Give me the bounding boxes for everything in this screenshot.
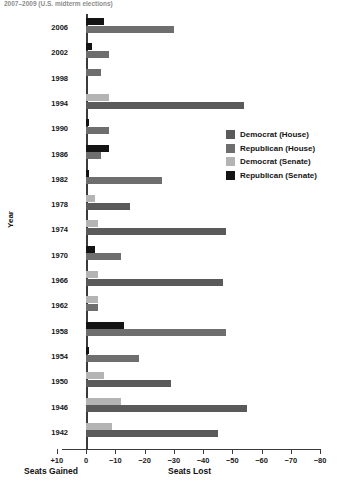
x-tick-label: −70 [284,456,297,465]
legend-item-dem-senate: Democrat (Senate) [226,155,317,169]
bar-dem-senate-1978 [86,195,95,202]
bar-rep-senate-1970 [86,246,95,253]
legend-label: Republican (House) [240,144,315,153]
y-axis-year-label: 1970 [22,251,68,260]
x-tick-mark [174,449,175,454]
x-tick-label: −30 [167,456,180,465]
bar-rep-house-1954 [86,355,139,362]
bar-dem-house-1974 [86,228,226,235]
bar-rep-house-2006 [86,26,174,33]
legend-label: Republican (Senate) [240,171,317,180]
bar-rep-senate-1958 [86,322,124,329]
chart-container: 2007–2009 (U.S. midterm elections) Year … [0,0,340,483]
y-axis-year-label: 1962 [22,301,68,310]
x-tick-label: +10 [50,456,63,465]
x-tick-label: 0 [84,456,88,465]
bar-rep-house-1958 [86,329,226,336]
legend-item-rep-senate: Republican (Senate) [226,169,317,183]
y-axis-year-label: 1954 [22,352,68,361]
bar-dem-senate-1974 [86,220,98,227]
bar-rep-house-1982 [86,177,162,184]
y-axis-year-label: 2006 [22,23,68,32]
x-tick-label: −50 [226,456,239,465]
bar-dem-senate-1946 [86,398,121,405]
bar-rep-senate-1990 [86,119,89,126]
x-tick-label: −10 [109,456,122,465]
bar-dem-senate-1966 [86,271,98,278]
axis-caption-lost: Seats Lost [168,466,211,476]
legend-label: Democrat (House) [240,130,309,139]
bar-dem-house-1978 [86,203,130,210]
bar-rep-house-1962 [86,304,98,311]
legend: Democrat (House)Republican (House)Democr… [226,128,317,182]
y-axis-year-label: 2002 [22,48,68,57]
bar-dem-house-1946 [86,405,247,412]
legend-label: Democrat (Senate) [240,157,311,166]
x-tick-label: −20 [138,456,151,465]
bar-dem-house-1950 [86,380,171,387]
bar-rep-house-1970 [86,253,121,260]
y-axis-year-label: 1998 [22,74,68,83]
bar-dem-house-1966 [86,279,223,286]
legend-item-dem-house: Democrat (House) [226,128,317,142]
x-tick-mark [262,449,263,454]
bar-dem-house-1994 [86,102,244,109]
x-tick-mark [115,449,116,454]
bar-rep-house-2002 [86,51,109,58]
bar-dem-house-1942 [86,430,218,437]
y-axis-title: Year [6,200,15,240]
bar-rep-senate-2006 [86,18,104,25]
y-axis-year-label: 1986 [22,150,68,159]
bar-rep-house-1998 [86,69,101,76]
x-tick-label: −80 [314,456,327,465]
y-axis-year-label: 1974 [22,225,68,234]
x-tick-mark [291,449,292,454]
bar-dem-senate-1962 [86,296,98,303]
x-tick-mark [232,449,233,454]
legend-swatch-icon [226,144,235,153]
bar-dem-senate-1942 [86,423,112,430]
y-axis-year-label: 1958 [22,327,68,336]
bar-rep-senate-1954 [86,347,89,354]
y-axis-year-label: 1994 [22,99,68,108]
legend-item-rep-house: Republican (House) [226,142,317,156]
legend-swatch-icon [226,171,235,180]
legend-swatch-icon [226,157,235,166]
bar-rep-house-1990 [86,127,109,134]
bar-rep-house-1986 [86,152,101,159]
x-tick-label: −40 [197,456,210,465]
x-tick-mark [203,449,204,454]
y-axis-year-label: 1946 [22,403,68,412]
y-axis-year-label: 1942 [22,428,68,437]
chart-title-partial: 2007–2009 (U.S. midterm elections) [4,0,234,8]
bar-rep-senate-1986 [86,145,109,152]
x-tick-label: −60 [255,456,268,465]
x-tick-mark [86,449,87,454]
y-axis-year-label: 1966 [22,276,68,285]
bar-dem-senate-1994 [86,94,109,101]
x-tick-mark [320,449,321,454]
axis-caption-gained: Seats Gained [24,466,78,476]
x-tick-mark [57,449,58,454]
x-axis-line [62,449,321,450]
y-axis-year-label: 1982 [22,175,68,184]
y-axis-year-label: 1978 [22,200,68,209]
bar-rep-senate-1982 [86,170,89,177]
y-axis-year-label: 1950 [22,377,68,386]
bar-dem-senate-1950 [86,372,104,379]
y-axis-year-label: 1990 [22,124,68,133]
bar-rep-senate-2002 [86,43,92,50]
legend-swatch-icon [226,130,235,139]
x-tick-mark [145,449,146,454]
